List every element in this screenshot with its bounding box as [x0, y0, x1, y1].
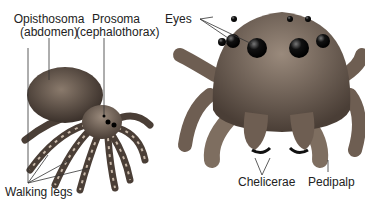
label-opisthosoma: Opisthosoma (abdomen) — [13, 13, 85, 39]
label-prosoma-sub: (cephalothorax) — [76, 26, 156, 39]
label-pedipalp: Pedipalp — [308, 176, 355, 189]
label-chelicerae: Chelicerae — [238, 176, 295, 189]
label-prosoma: Prosoma (cephalothorax) — [76, 13, 156, 39]
label-eyes: Eyes — [165, 13, 192, 26]
spider-face — [180, 12, 362, 160]
label-walking-legs: Walking legs — [5, 186, 73, 199]
label-opisthosoma-sub: (abdomen) — [13, 26, 85, 39]
prosoma-shape — [82, 105, 122, 139]
small-spider — [25, 67, 150, 190]
chelicera-left — [244, 112, 268, 150]
